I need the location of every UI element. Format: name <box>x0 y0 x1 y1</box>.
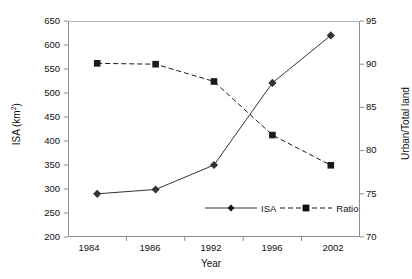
data-point-ratio-1984 <box>94 60 101 67</box>
legend-marker-ratio <box>280 202 332 214</box>
data-point-ratio-2002 <box>328 162 335 169</box>
data-point-ratio-1996 <box>269 132 276 139</box>
data-point-ratio-1986 <box>152 61 159 68</box>
data-point-ratio-1992 <box>211 78 218 85</box>
chart-container: 650 600 550 500 450 400 350 300 250 200 … <box>0 0 412 279</box>
data-point-isa-1992 <box>210 161 218 169</box>
legend-marker-isa <box>205 202 257 214</box>
chart-legend: ISA Ratio <box>205 202 359 214</box>
series-line-isa <box>97 35 331 193</box>
chart-data-layer <box>0 0 412 279</box>
series-layer <box>93 31 335 198</box>
data-point-isa-1986 <box>152 185 160 193</box>
data-point-isa-1984 <box>93 190 101 198</box>
legend-label-ratio: Ratio <box>336 203 358 214</box>
legend-label-isa: ISA <box>261 203 276 214</box>
